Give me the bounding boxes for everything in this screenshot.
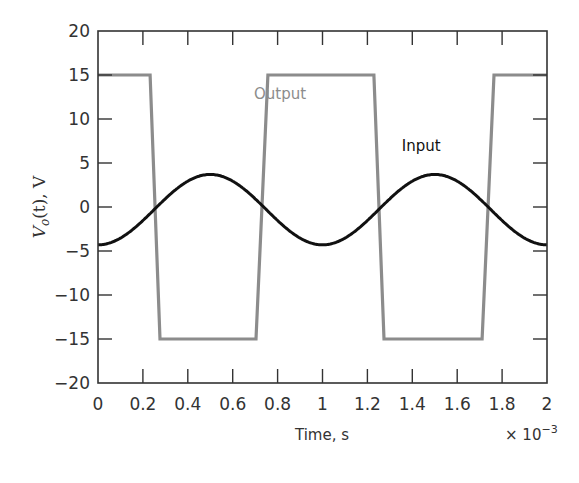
ylabel-subscript: o <box>38 219 52 226</box>
x-tick-label: 1 <box>317 394 328 414</box>
x-tick-labels: 00.20.40.60.811.21.41.61.82 <box>93 394 553 414</box>
x-axis-multiplier: × 10−3 <box>505 423 558 444</box>
y-tick-label: 20 <box>68 21 90 41</box>
y-tick-label: −20 <box>54 373 90 393</box>
chart: 00.20.40.60.811.21.41.61.82 20151050−5−1… <box>0 0 579 483</box>
output-series-line <box>98 75 547 339</box>
x-tick-label: 2 <box>542 394 553 414</box>
axis-ticks <box>98 31 547 383</box>
x-tick-label: 1.8 <box>489 394 516 414</box>
series-layer <box>98 75 547 339</box>
y-tick-label: 10 <box>68 109 90 129</box>
output-series-label: Output <box>254 85 306 103</box>
axes-frame <box>98 31 547 383</box>
input-series-line <box>98 174 547 244</box>
x-tick-label: 1.6 <box>444 394 471 414</box>
x-tick-label: 0.8 <box>264 394 291 414</box>
y-tick-label: −10 <box>54 285 90 305</box>
x-axis-title: Time, s <box>294 426 349 444</box>
input-series-label: Input <box>402 137 441 155</box>
x-tick-label: 1.4 <box>399 394 426 414</box>
y-tick-label: −5 <box>65 241 90 261</box>
x-multiplier-exponent: −3 <box>541 423 557 436</box>
x-tick-label: 0.4 <box>174 394 201 414</box>
y-tick-label: 0 <box>79 197 90 217</box>
ylabel-rest: (t), V <box>29 175 49 219</box>
y-tick-label: −15 <box>54 329 90 349</box>
x-tick-label: 1.2 <box>354 394 381 414</box>
y-axis-title: Vo(t), V <box>29 175 52 238</box>
x-tick-label: 0.2 <box>129 394 156 414</box>
x-multiplier-base: × 10 <box>505 426 541 444</box>
y-tick-label: 15 <box>68 65 90 85</box>
x-tick-label: 0 <box>93 394 104 414</box>
x-tick-label: 0.6 <box>219 394 246 414</box>
y-tick-labels: 20151050−5−10−15−20 <box>54 21 90 393</box>
y-tick-label: 5 <box>79 153 90 173</box>
